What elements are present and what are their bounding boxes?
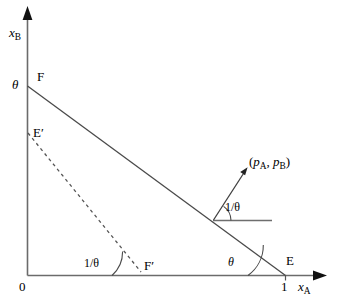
y-axis bbox=[23, 6, 33, 276]
point-label-F-prime: F′ bbox=[144, 259, 154, 272]
y-axis-label: xB bbox=[9, 26, 21, 39]
angle-arc-bottom-left bbox=[112, 252, 123, 276]
geometry-figure: xB xA 0 1 θ F E′ F′ E 1/θ 1/θ θ (pA, pB) bbox=[0, 0, 337, 303]
angle-label-middle: 1/θ bbox=[225, 201, 240, 213]
point-label-F: F bbox=[37, 70, 44, 83]
dashed-line-EpFp bbox=[28, 133, 141, 272]
point-label-E: E bbox=[286, 254, 294, 267]
origin-label: 0 bbox=[19, 280, 26, 293]
angle-label-bottom-right: θ bbox=[228, 256, 234, 268]
x-axis-label: xA bbox=[298, 280, 311, 293]
price-vector-label: (pA, pB) bbox=[249, 155, 290, 168]
x-tick-label-one: 1 bbox=[281, 280, 288, 293]
point-label-E-prime: E′ bbox=[33, 126, 44, 139]
y-intercept-theta-label: θ bbox=[12, 78, 18, 91]
angle-label-bottom-left: 1/θ bbox=[84, 257, 99, 269]
